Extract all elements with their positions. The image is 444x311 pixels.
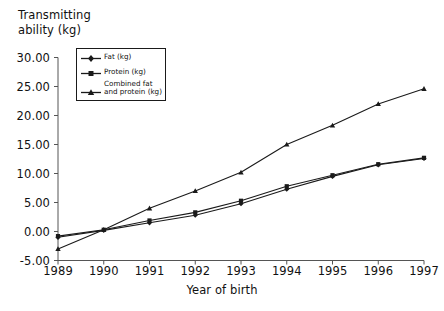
legend-symbol-protein-icon — [81, 69, 101, 78]
legend-item-protein: Protein (kg) — [81, 68, 167, 78]
legend-label-fat: Fat (kg) — [104, 53, 131, 61]
data-point-marker — [238, 170, 243, 175]
legend-symbol-combined-icon — [81, 88, 101, 97]
legend-item-fat: Fat (kg) — [81, 53, 167, 63]
data-point-marker — [376, 162, 380, 166]
series-line-1 — [58, 158, 424, 236]
data-point-marker — [56, 234, 60, 238]
x-axis-tick-label: 1997 — [394, 264, 444, 278]
data-point-marker — [285, 184, 289, 188]
data-point-marker — [239, 199, 243, 203]
legend-symbol-fat-icon — [81, 54, 101, 63]
legend: Fat (kg) Protein (kg) Combined fat and p… — [76, 48, 166, 101]
x-axis-title: Year of birth — [0, 283, 444, 297]
data-point-marker — [421, 86, 426, 91]
data-point-marker — [330, 173, 334, 177]
legend-label-protein: Protein (kg) — [104, 68, 146, 76]
legend-label-combined: Combined fat and protein (kg) — [104, 80, 162, 96]
data-point-marker — [147, 218, 151, 222]
chart-container: Transmitting ability (kg) -5.000.005.001… — [0, 0, 444, 311]
legend-item-combined: Combined fat and protein (kg) — [81, 80, 167, 97]
data-point-marker — [422, 156, 426, 160]
series-line-2 — [58, 89, 424, 249]
data-point-marker — [193, 210, 197, 214]
